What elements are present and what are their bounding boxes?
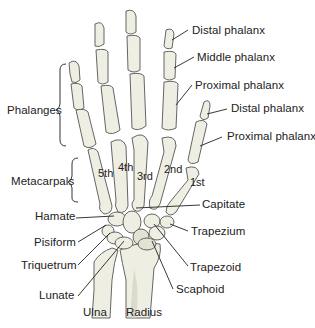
label-radius: Radius [126,307,162,319]
label-triquetrum: Triquetrum [21,260,77,272]
label-metacarpals: Metacarpals [11,176,74,188]
thumb-phalanges [188,101,210,164]
label-thumb-distal-phalanx: Distal phalanx [231,103,304,115]
ring-finger-phalanges [95,23,120,134]
label-capitate: Capitate [202,199,245,211]
label-proximal-phalanx: Proximal phalanx [195,80,284,92]
middle-finger-phalanges [126,10,146,129]
label-trapezium: Trapezium [191,226,245,238]
metacarpal-number-2nd: 2nd [164,164,182,175]
label-scaphoid: Scaphoid [176,284,224,296]
label-lunate: Lunate [39,290,74,302]
label-distal-phalanx: Distal phalanx [192,25,265,37]
label-pisiform: Pisiform [34,237,76,249]
little-finger-phalanges [69,61,96,148]
metacarpal-number-5th: 5th [98,168,113,179]
hand-bones-diagram: Phalanges Metacarpals Distal phalanx Mid… [0,0,315,328]
label-middle-phalanx: Middle phalanx [197,52,275,64]
label-trapezoid: Trapezoid [190,262,241,274]
metacarpal-number-3rd: 3rd [137,171,153,182]
carpal-bones [102,211,174,250]
label-phalanges: Phalanges [7,105,62,117]
label-thumb-proximal-phalanx: Proximal phalanx [227,131,315,143]
metacarpal-number-4th: 4th [118,162,133,173]
label-ulna: Ulna [83,307,107,319]
hand-skeleton-illustration [0,0,315,328]
index-finger-phalanges [162,29,178,130]
label-hamate: Hamate [35,211,76,223]
metacarpal-number-1st: 1st [190,177,205,188]
